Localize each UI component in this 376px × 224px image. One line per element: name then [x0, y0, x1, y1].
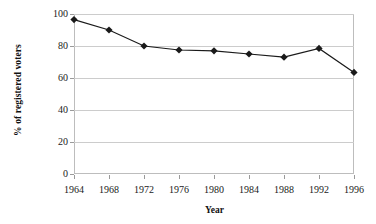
- x-axis-title: Year: [74, 205, 355, 215]
- x-axis-tick-mark: [284, 175, 285, 179]
- chart-figure: % of registered voters 020406080100 1964…: [0, 0, 376, 224]
- x-axis-tick-label: 1984: [229, 184, 269, 195]
- series-layer: [74, 14, 354, 174]
- series-line: [74, 20, 354, 73]
- data-point-marker: [175, 46, 182, 53]
- x-axis-tick-label: 1968: [89, 184, 129, 195]
- data-point-marker: [105, 26, 112, 33]
- data-point-marker: [140, 42, 147, 49]
- data-point-marker: [350, 69, 357, 76]
- x-axis-tick-mark: [354, 175, 355, 179]
- y-axis-tick-label: 80: [38, 41, 68, 51]
- x-axis-tick-label: 1996: [334, 184, 374, 195]
- x-axis-tick-labels: 196419681972197619801984198819921996: [74, 184, 355, 198]
- x-axis-tick-label: 1976: [159, 184, 199, 195]
- x-axis-tick-mark: [179, 175, 180, 179]
- y-axis-title-label: % of registered voters: [13, 44, 23, 136]
- y-axis-tick-label: 60: [38, 73, 68, 83]
- x-axis-tick-label: 1980: [194, 184, 234, 195]
- x-axis-tick-label: 1964: [54, 184, 94, 195]
- plot-area: [74, 14, 354, 174]
- x-axis-tick-mark: [249, 175, 250, 179]
- x-axis-tick-label: 1992: [299, 184, 339, 195]
- data-point-marker: [315, 45, 322, 52]
- data-point-marker: [245, 50, 252, 57]
- x-axis-tick-mark: [144, 175, 145, 179]
- x-axis-tick-mark: [319, 175, 320, 179]
- y-axis-tick-label: 100: [38, 9, 68, 19]
- x-axis-tick-mark: [109, 175, 110, 179]
- y-axis-title: % of registered voters: [6, 0, 30, 180]
- y-axis-tick-label: 20: [38, 137, 68, 147]
- x-axis-tick-mark: [214, 175, 215, 179]
- x-axis-tick-mark: [74, 175, 75, 179]
- y-axis-tick-label: 0: [38, 169, 68, 179]
- data-point-marker: [210, 47, 217, 54]
- y-axis-tick-label: 40: [38, 105, 68, 115]
- x-axis-tick-label: 1972: [124, 184, 164, 195]
- x-axis-tick-label: 1988: [264, 184, 304, 195]
- data-point-marker: [280, 54, 287, 61]
- x-axis-tick-marks: [74, 175, 355, 180]
